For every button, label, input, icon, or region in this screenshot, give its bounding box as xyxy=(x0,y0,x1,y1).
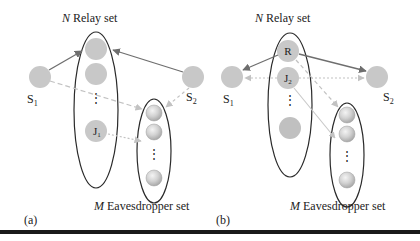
source-1-label-b: S1 xyxy=(223,92,234,108)
relay-node-2-a xyxy=(85,63,107,85)
relay-label-b: R xyxy=(284,45,292,57)
panel-label-b: (b) xyxy=(216,213,230,227)
eavesdropper-node-1-a xyxy=(146,105,162,121)
relay-node-top-a xyxy=(85,38,107,60)
eavesdropper-dots-b: ⋮ xyxy=(341,149,353,163)
eavesdropper-node-1-b xyxy=(339,107,355,123)
panel-a: N Relay set ⋮ J1 S1 S2 ⋮ M Eavesdropper … xyxy=(24,11,204,227)
panel-label-a: (a) xyxy=(24,213,37,227)
eavesdropper-node-m-a xyxy=(146,170,162,186)
eavesdropper-node-m-b xyxy=(339,172,355,188)
link-j1-eve-a xyxy=(108,134,141,141)
link-r-eve-b xyxy=(296,60,338,107)
eavesdropper-dots-a: ⋮ xyxy=(148,147,160,161)
eavesdropper-set-title-b: M Eavesdropper set xyxy=(289,199,386,213)
bottom-rule xyxy=(0,230,420,234)
relay-set-title-b: N Relay set xyxy=(254,11,311,25)
source-2-label-a: S2 xyxy=(186,90,197,106)
eavesdropper-node-2-a xyxy=(146,124,162,140)
source-1-node-a xyxy=(29,66,51,88)
eavesdropper-node-2-b xyxy=(339,126,355,142)
relay-dots-b: ⋮ xyxy=(284,93,296,107)
relay-node-n-b xyxy=(279,117,301,139)
source-2-label-b: S2 xyxy=(383,90,394,106)
panel-b: N Relay set R J2 ⋮ S1 S2 ⋮ M Eavesdroppe… xyxy=(216,11,394,227)
source-1-node-b xyxy=(221,66,243,88)
source-2-node-a xyxy=(182,66,204,88)
eavesdropper-set-title-a: M Eavesdropper set xyxy=(93,199,190,213)
source-1-label-a: S1 xyxy=(27,92,38,108)
relay-set-title-a: N Relay set xyxy=(61,11,118,25)
source-2-node-b xyxy=(366,66,388,88)
relay-eavesdropper-figure: N Relay set ⋮ J1 S1 S2 ⋮ M Eavesdropper … xyxy=(0,0,420,241)
link-s2-relay-a xyxy=(113,50,183,72)
